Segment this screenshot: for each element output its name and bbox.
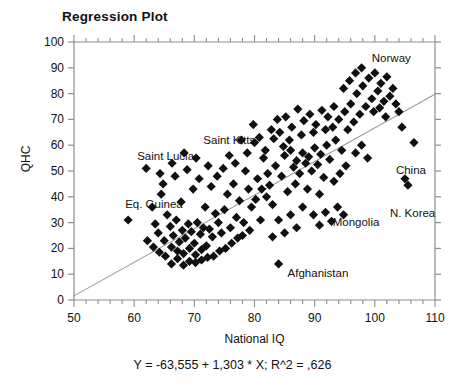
data-point	[184, 219, 193, 228]
x-tick-label: 100	[355, 312, 395, 324]
data-point	[173, 254, 182, 263]
data-point	[283, 187, 292, 196]
y-tick-label: 40	[28, 191, 64, 203]
data-point	[217, 228, 226, 237]
data-point	[292, 223, 301, 232]
data-point	[357, 63, 366, 72]
data-point	[275, 128, 284, 137]
data-point	[409, 138, 418, 147]
data-point	[297, 130, 306, 139]
x-axis-label: National IQ	[74, 332, 435, 346]
data-point	[207, 182, 216, 191]
data-point	[277, 172, 286, 181]
data-point	[303, 184, 312, 193]
data-point	[346, 99, 355, 108]
data-point	[331, 135, 340, 144]
data-point	[329, 102, 338, 111]
data-point	[343, 125, 352, 134]
data-point	[385, 92, 394, 101]
y-tick-label: 90	[28, 62, 64, 74]
data-point	[249, 120, 258, 129]
data-point	[226, 223, 235, 232]
data-point	[261, 146, 270, 155]
data-point	[167, 259, 176, 268]
x-tick-label: 70	[174, 312, 214, 324]
x-tick-label: 80	[235, 312, 275, 324]
regression-plot-figure: Regression Plot QHC National IQ Y = -63,…	[0, 0, 465, 391]
data-point	[208, 232, 217, 241]
y-tick-label: 100	[28, 36, 64, 48]
data-point	[225, 151, 234, 160]
data-point	[267, 125, 276, 134]
data-point	[195, 174, 204, 183]
point-label: N. Korea	[390, 207, 435, 219]
y-tick-label: 80	[28, 88, 64, 100]
data-point	[253, 174, 262, 183]
data-point	[355, 110, 364, 119]
data-point	[214, 218, 223, 227]
point-label: Saint Kitts	[203, 134, 255, 146]
data-point	[163, 210, 172, 219]
data-point	[322, 141, 331, 150]
y-tick-label: 30	[28, 217, 64, 229]
data-point	[382, 72, 391, 81]
data-point	[154, 228, 163, 237]
data-point	[293, 104, 302, 113]
data-point	[142, 164, 151, 173]
data-point	[311, 120, 320, 129]
data-point	[219, 164, 228, 173]
data-point	[321, 208, 330, 217]
y-tick-label: 20	[28, 242, 64, 254]
data-point	[317, 106, 326, 115]
data-point	[285, 135, 294, 144]
data-point	[341, 161, 350, 170]
data-point	[204, 161, 213, 170]
data-point	[286, 210, 295, 219]
data-point	[223, 190, 232, 199]
data-point	[262, 192, 271, 201]
data-point	[155, 169, 164, 178]
data-point	[310, 143, 319, 152]
data-point	[232, 213, 241, 222]
data-point	[245, 226, 254, 235]
data-point	[291, 179, 300, 188]
data-point	[166, 222, 175, 231]
data-point	[309, 128, 318, 137]
data-point	[321, 125, 330, 134]
data-point	[247, 203, 256, 212]
data-point	[333, 203, 342, 212]
data-point	[388, 84, 397, 93]
data-point	[269, 134, 278, 143]
regression-equation: Y = -63,555 + 1,303 * X; R^2 = ,626	[40, 358, 425, 372]
data-point	[316, 150, 325, 159]
data-point	[227, 239, 236, 248]
data-point	[263, 169, 272, 178]
data-point	[339, 84, 348, 93]
data-point	[323, 112, 332, 121]
y-tick-label: 10	[28, 268, 64, 280]
data-point	[352, 89, 361, 98]
data-point	[220, 205, 229, 214]
data-point	[364, 74, 373, 83]
data-point	[307, 166, 316, 175]
y-tick-label: 70	[28, 113, 64, 125]
point-label: Eq. Guinea	[125, 198, 183, 210]
data-point	[334, 115, 343, 124]
data-point	[281, 112, 290, 121]
y-tick-label: 60	[28, 139, 64, 151]
data-point	[305, 110, 314, 119]
data-point	[279, 142, 288, 151]
data-point	[211, 209, 220, 218]
point-label: China	[396, 164, 426, 176]
data-point	[268, 232, 277, 241]
data-point	[243, 148, 252, 157]
data-point	[295, 169, 304, 178]
data-point	[143, 236, 152, 245]
data-point	[315, 190, 324, 199]
data-point	[370, 68, 379, 77]
data-point	[151, 219, 160, 228]
data-point	[273, 115, 282, 124]
data-point	[329, 177, 338, 186]
data-point	[298, 203, 307, 212]
data-point	[241, 166, 250, 175]
